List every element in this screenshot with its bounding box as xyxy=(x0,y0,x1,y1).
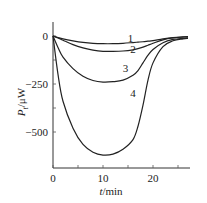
y-tick-label: −250 xyxy=(25,78,48,90)
x-tick-label: 20 xyxy=(148,172,160,184)
x-tick-label: 10 xyxy=(98,172,110,184)
curve-label-1: 1 xyxy=(128,32,134,44)
y-axis-label: Pt/μW xyxy=(15,87,30,117)
curve-label-2: 2 xyxy=(130,43,136,55)
y-tick-label: −500 xyxy=(25,126,48,138)
curve-label-4: 4 xyxy=(130,87,136,99)
curve-4 xyxy=(53,36,188,155)
axes: 010200−250−500t/minPt/μW xyxy=(15,22,190,197)
line-chart: 010200−250−500t/minPt/μW 1234 xyxy=(0,0,207,203)
x-axis-label: t/min xyxy=(99,185,123,197)
x-tick-label: 0 xyxy=(50,172,56,184)
curves xyxy=(53,36,188,155)
curve-label-3: 3 xyxy=(123,62,129,74)
y-tick-label: 0 xyxy=(43,30,49,42)
